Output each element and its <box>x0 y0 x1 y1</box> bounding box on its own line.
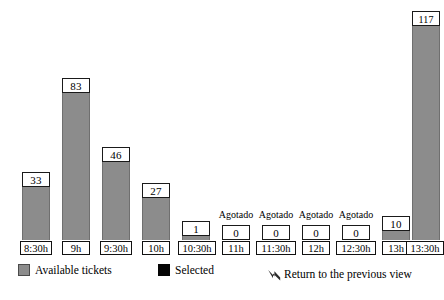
bar-column[interactable]: 33 <box>22 172 50 240</box>
bar-value-label: 1 <box>182 221 210 236</box>
return-link-label: Return to the previous view <box>284 268 412 280</box>
bar-column[interactable]: 46 <box>102 147 130 240</box>
legend-item-selected[interactable]: Selected <box>158 262 214 278</box>
x-tick-label[interactable]: 10:30h <box>178 241 216 255</box>
bar-value-label: 46 <box>102 147 130 162</box>
x-tick-label[interactable]: 12h <box>302 241 330 255</box>
x-tick-label[interactable]: 12:30h <box>336 241 376 255</box>
return-to-previous-view-button[interactable]: Return to the previous view <box>266 266 412 282</box>
bar-column[interactable]: 0 <box>262 223 290 240</box>
legend-label-available: Available tickets <box>35 264 112 276</box>
bar-column[interactable]: 1 <box>182 221 210 240</box>
bar-column[interactable]: 0 <box>342 223 370 240</box>
bar-value-label: 10 <box>382 216 410 231</box>
selected-swatch-icon <box>158 264 170 276</box>
ticket-availability-chart: 33 8:30h 83 9h 46 9:30h 27 10h <box>0 0 444 300</box>
bar-column[interactable]: 10 <box>382 216 410 240</box>
bar-value-label: 0 <box>262 225 290 240</box>
bar-value-label: 0 <box>342 225 370 240</box>
plot-area: 33 8:30h 83 9h 46 9:30h 27 10h <box>0 0 444 240</box>
bar-value-label: 0 <box>302 225 330 240</box>
bar-column[interactable]: 0 <box>222 223 250 240</box>
x-tick-label[interactable]: 13:30h <box>406 241 444 255</box>
x-tick-label[interactable]: 10h <box>142 241 170 255</box>
bar-value-label: 0 <box>222 225 250 240</box>
x-tick-label[interactable]: 9h <box>62 241 90 255</box>
bar-value-label: 27 <box>142 183 170 198</box>
bar-column[interactable]: 27 <box>142 183 170 240</box>
bar-value-label: 83 <box>62 78 90 93</box>
bar-value-label: 117 <box>412 11 440 26</box>
x-tick-label[interactable]: 9:30h <box>100 241 132 255</box>
x-tick-label[interactable]: 11h <box>222 241 250 255</box>
legend-item-available[interactable]: Available tickets <box>18 262 112 278</box>
bar-value-label: 33 <box>22 172 50 187</box>
bar-fill-available[interactable] <box>62 78 90 240</box>
x-tick-label[interactable]: 8:30h <box>20 241 52 255</box>
legend-label-selected: Selected <box>175 264 214 276</box>
sold-out-label: Agotado <box>328 209 384 220</box>
curved-arrow-up-left-icon <box>266 267 282 282</box>
bar-column[interactable]: 117 <box>412 11 440 240</box>
bar-column[interactable]: 83 <box>62 78 90 240</box>
available-tickets-swatch-icon <box>18 264 30 276</box>
bar-column[interactable]: 0 <box>302 223 330 240</box>
bar-fill-available[interactable] <box>412 11 440 240</box>
x-tick-label[interactable]: 11:30h <box>256 241 296 255</box>
